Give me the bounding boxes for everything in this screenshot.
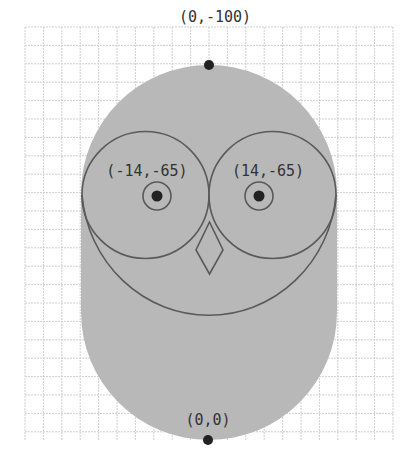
right-pupil-dot: [254, 191, 265, 202]
owl-diagram: (0,-100) (-14,-65) (14,-65) (0,0): [0, 0, 410, 470]
left-pupil-dot: [152, 191, 163, 202]
right-eye-label: (14,-65): [232, 162, 304, 180]
top-point-label: (0,-100): [179, 8, 251, 26]
origin-label: (0,0): [185, 411, 230, 429]
top-point-dot: [204, 60, 214, 70]
left-eye-label: (-14,-65): [106, 162, 187, 180]
origin-point-dot: [203, 435, 213, 445]
